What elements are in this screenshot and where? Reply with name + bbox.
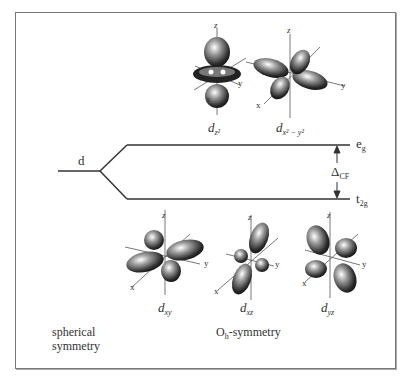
dyz-label: dyz (321, 300, 334, 316)
split-down-line (100, 171, 127, 199)
oh-rest: -symmetry (229, 325, 281, 339)
dxy-axis-y: y (204, 258, 209, 268)
dyz-axis-x: x (302, 278, 307, 288)
dz2-orbital-icon (193, 28, 246, 115)
dxy-axis-x: x (130, 282, 135, 292)
dxz-axis-z: z (248, 212, 252, 222)
oh-symmetry-caption: Oh-symmetry (216, 325, 281, 340)
dyz-orbital-icon (303, 212, 361, 298)
dxz-orbital-icon (218, 215, 278, 300)
caption-line1: spherical (52, 325, 95, 339)
eg-label-sub: g (362, 144, 366, 153)
dx2y2-label-sub: x² − y² (283, 128, 304, 137)
dxz-label: dxz (240, 300, 253, 316)
dxz-label-sub: xz (247, 308, 254, 317)
dxy-orbital-icon (124, 210, 205, 295)
dyz-axis-y: y (362, 259, 367, 269)
dz2-axis-x: x (206, 94, 211, 104)
dz2-label-sub: z² (215, 128, 221, 137)
dz2-axis-y: y (238, 78, 243, 88)
dz2-label-main: d (208, 120, 215, 135)
oh-sub: h (225, 332, 229, 341)
dxz-axis-x: x (214, 286, 219, 296)
eg-label-main: e (356, 136, 362, 151)
dxy-label: dxy (158, 300, 172, 316)
caption-line2: symmetry (52, 339, 100, 353)
d-level-label: d (78, 153, 85, 169)
t2g-label: t2g (356, 191, 368, 207)
dx2y2-axis-x: x (256, 100, 261, 110)
dyz-label-main: d (321, 300, 328, 315)
dx2y2-label: dx² − y² (276, 120, 304, 136)
delta-cf-label: ΔCF (331, 164, 349, 180)
dx2y2-axis-y: y (341, 80, 346, 90)
diagram-canvas (0, 0, 403, 379)
dxy-label-sub: xy (165, 308, 172, 317)
delta-cf-sub: CF (339, 172, 349, 181)
dxz-axis-y: y (275, 259, 280, 269)
dxy-axis-z: z (162, 210, 166, 220)
dx2y2-axis-z: z (287, 25, 291, 35)
spherical-symmetry-caption: sphericalsymmetry (52, 325, 100, 353)
dyz-label-sub: yz (328, 308, 335, 317)
dyz-axis-z: z (327, 210, 331, 220)
dxy-label-main: d (158, 300, 165, 315)
t2g-label-sub: 2g (360, 199, 368, 208)
dxz-label-main: d (240, 300, 247, 315)
eg-label: eg (356, 136, 366, 152)
dx2y2-label-main: d (276, 120, 283, 135)
split-up-line (100, 145, 127, 171)
energy-levels (58, 145, 350, 199)
oh-main: O (216, 325, 225, 339)
dz2-axis-z: z (214, 20, 218, 30)
dz2-label: dz² (208, 120, 220, 136)
